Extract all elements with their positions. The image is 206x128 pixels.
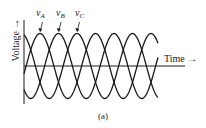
phase-label-vc: vC <box>75 7 84 20</box>
three-phase-voltage-diagram <box>0 0 206 128</box>
phase-label-vb: vB <box>56 7 65 20</box>
phase-label-va: vA <box>36 7 45 20</box>
label-pointer-arrows <box>39 22 80 32</box>
figure-caption: (a) <box>98 111 108 121</box>
x-axis-label: Time → <box>164 53 197 64</box>
arrow-right-icon: → <box>187 53 197 64</box>
arrow-up-icon: → <box>10 19 21 29</box>
y-axis-label: Voltage → <box>10 22 21 62</box>
